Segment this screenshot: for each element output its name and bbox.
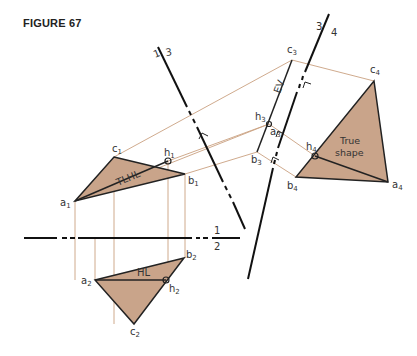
label-c3: c3	[287, 44, 297, 57]
fold-label-3-left: 3	[316, 21, 322, 32]
label-true: True	[339, 135, 360, 146]
fold-label-2: 2	[214, 241, 220, 252]
right-angle-markers	[199, 82, 311, 163]
label-h1: h1	[164, 147, 175, 160]
fold-label-1: 1	[214, 225, 220, 236]
label-a4: a4	[392, 179, 403, 192]
label-c1: c1	[112, 143, 122, 156]
fold-label-3-right: 3	[165, 46, 173, 58]
fold-label-4-right: 4	[331, 27, 337, 38]
label-b3: b3	[251, 154, 262, 167]
label-b4: b4	[287, 180, 298, 193]
label-h4: h4	[306, 141, 317, 154]
label-a3: a3	[270, 126, 281, 139]
label-c2: c2	[130, 326, 140, 339]
view4-true-shape	[296, 81, 388, 182]
label-h2: h2	[169, 283, 180, 296]
label-a1: a1	[60, 197, 71, 210]
view3-edge-view	[257, 60, 292, 152]
descriptive-geometry-diagram: 1 2 1 3 3 4 c1 h1 b1 a1 TLHL	[0, 0, 417, 356]
label-shape: shape	[335, 147, 364, 158]
label-h3: h3	[255, 111, 266, 124]
label-hl: HL	[137, 267, 151, 278]
label-b2: b2	[186, 249, 197, 262]
label-a2: a2	[81, 275, 92, 288]
label-b1: b1	[188, 175, 199, 188]
label-c4: c4	[370, 64, 381, 77]
